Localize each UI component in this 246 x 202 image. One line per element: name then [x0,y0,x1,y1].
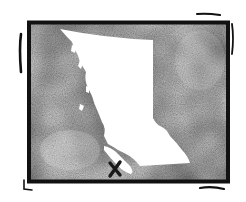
map-illustration [0,0,246,202]
map-svg [0,0,246,202]
